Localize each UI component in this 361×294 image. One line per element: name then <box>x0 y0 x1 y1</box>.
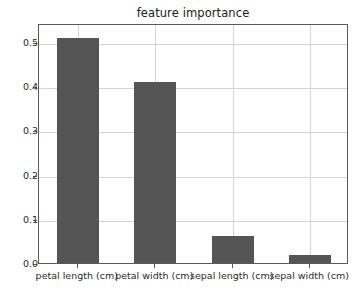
y-tick-label: 0.1 <box>4 215 38 225</box>
x-tick-mark <box>154 264 155 268</box>
bar-1[interactable] <box>134 82 176 263</box>
y-axis: 0.00.10.20.30.40.5 <box>0 24 38 264</box>
x-axis: petal length (cm)petal width (cm)sepal l… <box>38 264 348 294</box>
bar-0[interactable] <box>57 38 99 263</box>
gridline-vertical <box>233 25 234 263</box>
figure-canvas: feature importance 0.00.10.20.30.40.5 pe… <box>0 0 361 294</box>
bar-3[interactable] <box>289 255 331 263</box>
chart-title: feature importance <box>38 6 348 20</box>
y-tick-label: 0.4 <box>4 82 38 92</box>
y-tick-label: 0.3 <box>4 126 38 136</box>
x-tick-mark <box>77 264 78 268</box>
y-tick-label: 0.5 <box>4 38 38 48</box>
y-tick-label: 0.0 <box>4 259 38 269</box>
x-tick-mark <box>232 264 233 268</box>
x-tick-label: petal width (cm) <box>115 270 193 281</box>
x-tick-label: sepal length (cm) <box>190 270 274 281</box>
y-tick-label: 0.2 <box>4 171 38 181</box>
x-tick-label: petal length (cm) <box>36 270 118 281</box>
gridline-vertical <box>310 25 311 263</box>
bar-2[interactable] <box>212 236 254 263</box>
plot-area <box>38 24 348 264</box>
x-tick-label: sepal width (cm) <box>270 270 349 281</box>
x-tick-mark <box>309 264 310 268</box>
